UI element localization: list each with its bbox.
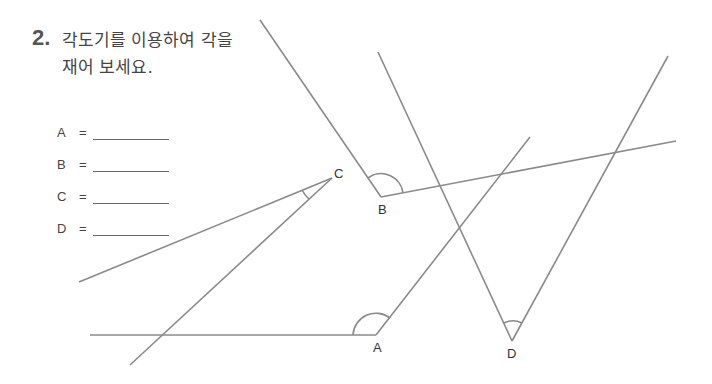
angle-diagram: C B A D xyxy=(0,0,712,384)
vertex-label-a: A xyxy=(373,340,382,355)
angle-d xyxy=(378,52,668,341)
angle-c xyxy=(79,178,332,365)
vertex-label-c: C xyxy=(334,166,343,181)
vertex-label-d: D xyxy=(507,346,516,361)
angle-c-arc xyxy=(302,190,309,199)
angle-d-arc xyxy=(504,321,522,323)
angle-b-arc xyxy=(368,174,403,193)
vertex-label-b: B xyxy=(378,202,387,217)
angle-b xyxy=(260,20,676,197)
